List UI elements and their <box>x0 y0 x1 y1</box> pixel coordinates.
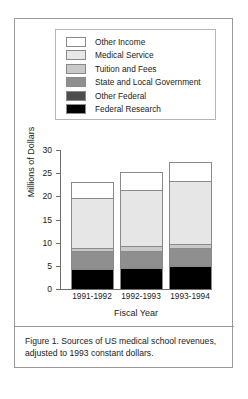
y-tick-10 <box>56 243 61 244</box>
figure-frame: Other Income Medical Service Tuition and… <box>14 18 233 368</box>
bar-1992-1993[interactable] <box>120 172 163 289</box>
bar-1993-1994[interactable] <box>169 162 212 289</box>
caption-divider <box>15 326 234 327</box>
bar-segment-state-and-local-government <box>169 248 212 266</box>
x-axis-line <box>60 289 212 290</box>
x-axis-title: Fiscal Year <box>60 308 212 318</box>
y-tick-15 <box>56 220 61 221</box>
bar-segment-medical-service <box>71 198 114 248</box>
y-tick-label-30: 30 <box>26 146 52 155</box>
bar-segment-medical-service <box>169 181 212 244</box>
bar-segment-state-and-local-government <box>120 251 163 267</box>
bar-segment-federal-research <box>71 269 114 289</box>
bar-1991-1992[interactable] <box>71 182 114 290</box>
bar-segment-other-income <box>169 162 212 182</box>
y-tick-label-10: 10 <box>26 239 52 248</box>
y-tick-5 <box>56 266 61 267</box>
x-tick-label-1993-1994: 1993-1994 <box>160 292 220 300</box>
bar-segment-other-income <box>71 182 114 199</box>
bar-segment-state-and-local-government <box>71 251 114 268</box>
figure-caption: Figure 1. Sources of US medical school r… <box>25 335 225 360</box>
bar-segment-federal-research <box>169 266 212 289</box>
bar-segment-other-income <box>120 172 163 190</box>
y-tick-25 <box>56 173 61 174</box>
bar-segment-medical-service <box>120 190 163 246</box>
y-tick-20 <box>56 196 61 197</box>
y-tick-30 <box>56 150 61 151</box>
y-tick-label-15: 15 <box>26 216 52 225</box>
plot-area: Millions of Dollars 0 5 10 15 20 25 30 <box>15 19 234 369</box>
y-tick-label-0: 0 <box>26 285 52 294</box>
y-tick-label-20: 20 <box>26 192 52 201</box>
bar-segment-federal-research <box>120 268 163 289</box>
y-tick-label-25: 25 <box>26 169 52 178</box>
y-tick-label-5: 5 <box>26 262 52 271</box>
